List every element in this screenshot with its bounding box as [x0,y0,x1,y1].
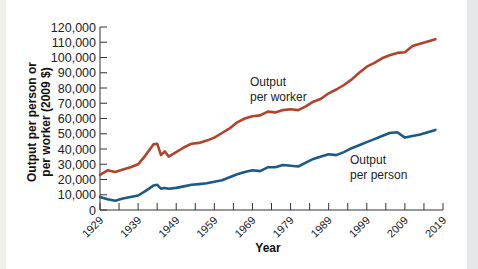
x-tick-label: 1969 [232,214,258,240]
y-tick-label: 80,000 [58,82,96,96]
annotation-output-per-person-line1: Output [350,153,387,167]
x-axis: 1929193919491959196919791989199920092019 [80,203,449,240]
x-tick-label: 1959 [194,214,220,240]
y-axis: 010,00020,00030,00040,00050,00060,00070,… [51,21,107,218]
x-tick-label: 2019 [423,214,449,240]
y-tick-label: 100,000 [51,51,96,65]
y-tick-label: 90,000 [58,66,96,80]
y-axis-title-line1: Output per person or [25,62,39,182]
x-tick-label: 1939 [118,214,144,240]
y-axis-title-line2: per worker (2009 $) [39,67,53,176]
y-tick-label: 120,000 [51,21,96,35]
x-tick-label: 1979 [270,214,296,240]
y-tick-label: 110,000 [52,36,96,50]
annotation-output-per-worker-line1: Output [250,75,287,89]
x-axis-title: Year [255,241,281,255]
y-tick-label: 20,000 [58,173,96,187]
annotation-output-per-person-line2: per person [350,168,407,182]
x-tick-label: 1999 [346,214,372,240]
x-tick-label: 1989 [308,214,334,240]
annotation-output-per-worker-line2: per worker [250,90,307,104]
x-tick-label: 2009 [385,214,411,240]
y-tick-label: 40,000 [58,143,96,157]
x-tick-label: 1929 [80,214,106,240]
line-chart: 010,00020,00030,00040,00050,00060,00070,… [0,0,478,269]
y-tick-label: 10,000 [58,188,96,202]
y-tick-label: 30,000 [58,158,96,172]
y-tick-label: 50,000 [58,127,96,141]
y-tick-label: 70,000 [58,97,96,111]
y-tick-label: 60,000 [58,112,96,126]
x-tick-label: 1949 [156,214,182,240]
